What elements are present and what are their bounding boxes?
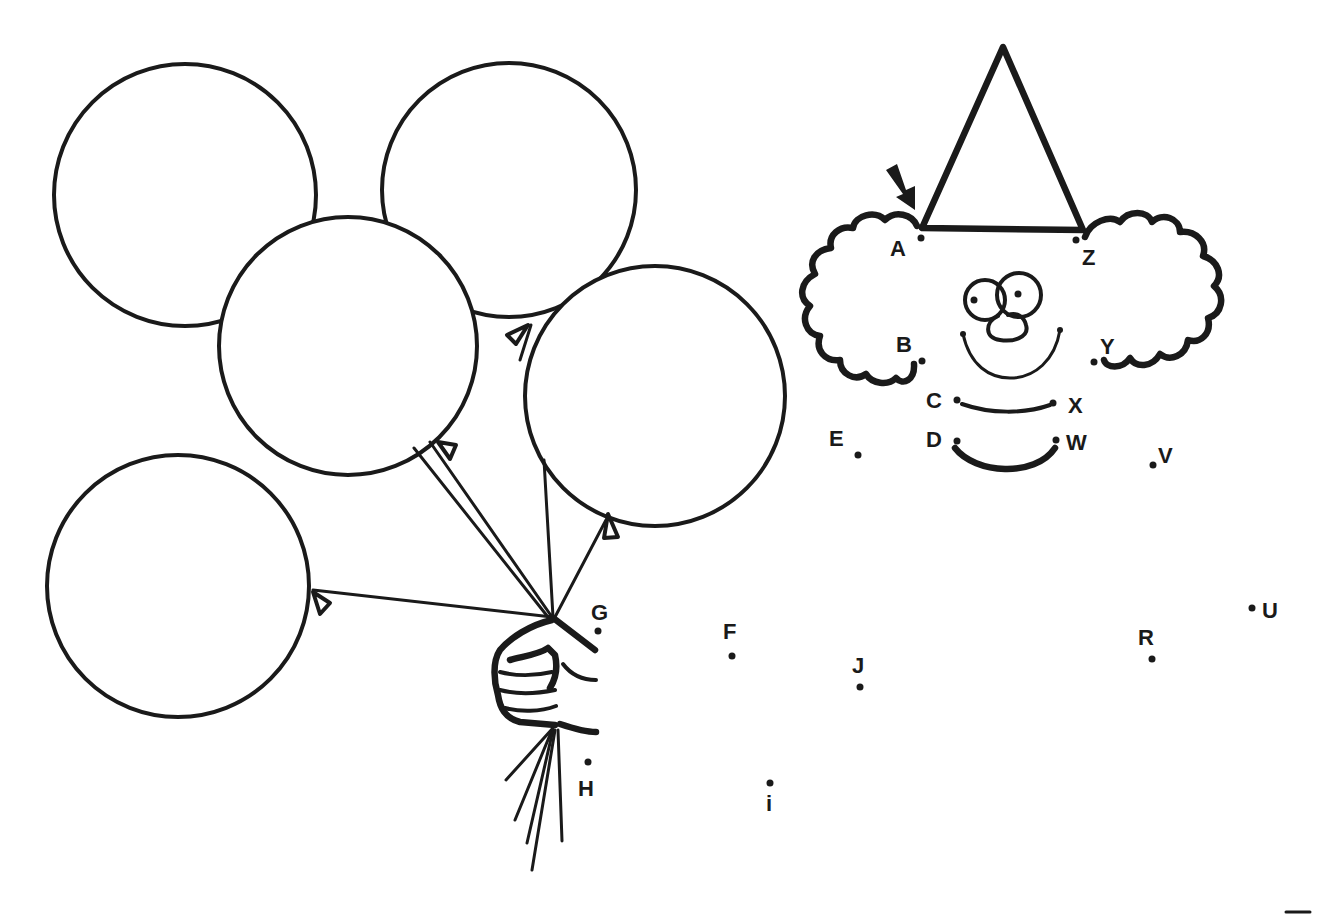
dot-label: V — [1158, 443, 1173, 468]
dot-A[interactable]: A — [890, 235, 925, 262]
dot-point[interactable] — [1073, 237, 1080, 244]
dot-i[interactable]: i — [766, 780, 774, 817]
dot-point[interactable] — [857, 684, 864, 691]
dot-J[interactable]: J — [852, 653, 864, 691]
dot-X[interactable]: X — [1050, 393, 1084, 418]
dot-W[interactable]: W — [1053, 430, 1088, 455]
dot-U[interactable]: U — [1249, 598, 1278, 623]
dot-point[interactable] — [954, 397, 961, 404]
dot-F[interactable]: F — [723, 619, 736, 660]
balloons — [47, 63, 785, 717]
dot-point[interactable] — [918, 235, 925, 242]
dot-label: E — [829, 426, 844, 451]
dot-H[interactable]: H — [578, 759, 594, 802]
nose — [988, 314, 1026, 340]
dot-label: C — [926, 388, 942, 413]
dot-point[interactable] — [767, 780, 774, 787]
balloon-bottom-left — [47, 455, 309, 717]
dot-label: U — [1262, 598, 1278, 623]
dot-point[interactable] — [585, 759, 592, 766]
connect-the-dots-worksheet: ABCDEFGHiJRUVWXYZ — [0, 0, 1328, 917]
dot-label: Y — [1100, 334, 1115, 359]
balloon-middle-left — [219, 217, 477, 475]
dot-label: R — [1138, 625, 1154, 650]
dot-point[interactable] — [1053, 437, 1060, 444]
dot-Z[interactable]: Z — [1073, 237, 1096, 271]
dot-label: Z — [1082, 245, 1095, 270]
dot-label: J — [852, 653, 864, 678]
dot-label: H — [578, 776, 594, 801]
party-hat — [922, 47, 1083, 230]
dot-E[interactable]: E — [829, 426, 862, 459]
balloon-knot-icon — [313, 592, 330, 614]
chin-line-lower — [955, 448, 1055, 469]
dot-label: B — [896, 332, 912, 357]
dot-label: W — [1066, 430, 1087, 455]
dot-label: G — [591, 600, 608, 625]
dot-C[interactable]: C — [926, 388, 961, 413]
dot-point[interactable] — [729, 653, 736, 660]
dot-point[interactable] — [919, 358, 926, 365]
dot-point[interactable] — [1149, 656, 1156, 663]
clown — [802, 47, 1221, 469]
dot-label: F — [723, 619, 736, 644]
dot-V[interactable]: V — [1150, 443, 1174, 469]
dot-G[interactable]: G — [591, 600, 608, 635]
dot-label: i — [766, 791, 772, 816]
dot-point[interactable] — [1150, 462, 1157, 469]
hand — [495, 617, 597, 870]
dot-R[interactable]: R — [1138, 625, 1156, 663]
dot-label: X — [1068, 393, 1083, 418]
dot-label: D — [926, 427, 942, 452]
smile — [963, 330, 1060, 378]
dot-point[interactable] — [954, 438, 961, 445]
dot-label: A — [890, 236, 906, 261]
dot-point[interactable] — [1050, 400, 1057, 407]
start-arrow-icon — [886, 164, 915, 210]
chin-line-upper — [962, 404, 1050, 412]
dot-point[interactable] — [855, 452, 862, 459]
dot-point[interactable] — [1091, 359, 1098, 366]
balloon-middle-right — [525, 266, 785, 526]
dot-B[interactable]: B — [896, 332, 926, 365]
dot-point[interactable] — [1249, 605, 1256, 612]
dot-point[interactable] — [595, 628, 602, 635]
